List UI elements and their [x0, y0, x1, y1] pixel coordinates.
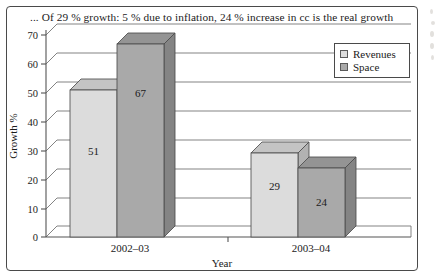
- bar-value-label: 67: [135, 87, 147, 99]
- bar-value-label: 29: [269, 180, 281, 192]
- chart-legend[interactable]: Revenues Space: [334, 43, 410, 78]
- legend-item-revenues[interactable]: Revenues: [340, 47, 404, 60]
- y-axis-title: Growth %: [7, 113, 19, 159]
- bar-space-2003-04[interactable]: 24: [298, 157, 356, 237]
- x-category-label: 2003–04: [292, 242, 331, 254]
- y-tick-label: 10: [28, 204, 39, 215]
- y-tick-label: 0: [33, 232, 38, 243]
- y-tick-label: 40: [28, 117, 39, 128]
- legend-item-label: Space: [353, 61, 379, 73]
- x-axis-title: Year: [212, 257, 233, 269]
- y-tick-label: 60: [28, 59, 39, 70]
- chart-figure: ... Of 29 % growth: 5 % due to inflation…: [0, 0, 443, 279]
- x-category-label: 2002–03: [111, 242, 150, 254]
- y-tick-marks: [41, 35, 46, 237]
- legend-item-label: Revenues: [353, 48, 396, 60]
- y-tick-label: 70: [28, 30, 39, 41]
- bar-value-label: 51: [88, 145, 99, 157]
- legend-swatch-icon: [340, 63, 348, 71]
- y-tick-label: 20: [28, 175, 39, 186]
- bar-space-2002-03[interactable]: 67: [117, 33, 175, 237]
- y-tick-label: 50: [28, 88, 39, 99]
- legend-swatch-icon: [340, 50, 348, 58]
- legend-item-space[interactable]: Space: [340, 60, 404, 73]
- bar-value-label: 24: [316, 196, 328, 208]
- y-tick-label: 30: [28, 146, 39, 157]
- plot-area: 70 60 50 40 30 20 10 0 Growth % 51 67 20…: [0, 0, 443, 279]
